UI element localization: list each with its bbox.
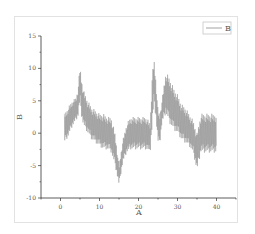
y-tick-label: 5 bbox=[32, 97, 36, 104]
x-tick-label: 30 bbox=[174, 203, 182, 210]
y-axis-title: B bbox=[15, 114, 24, 120]
y-axis: -10-5051015 bbox=[26, 32, 41, 201]
x-tick-label: 0 bbox=[59, 203, 63, 210]
y-tick-label: -5 bbox=[30, 162, 36, 169]
line-chart: -10-5051015 010203040 A B B bbox=[0, 0, 255, 234]
series-b-line bbox=[64, 62, 216, 183]
y-tick-label: 10 bbox=[28, 64, 36, 71]
y-tick-label: 15 bbox=[28, 32, 36, 39]
legend-label: B bbox=[225, 24, 231, 33]
y-tick-label: 0 bbox=[32, 129, 36, 136]
legend: B bbox=[203, 22, 231, 34]
x-tick-label: 40 bbox=[213, 203, 221, 210]
x-tick-label: 10 bbox=[96, 203, 104, 210]
x-axis-title: A bbox=[135, 208, 142, 217]
y-tick-label: -10 bbox=[26, 194, 36, 201]
